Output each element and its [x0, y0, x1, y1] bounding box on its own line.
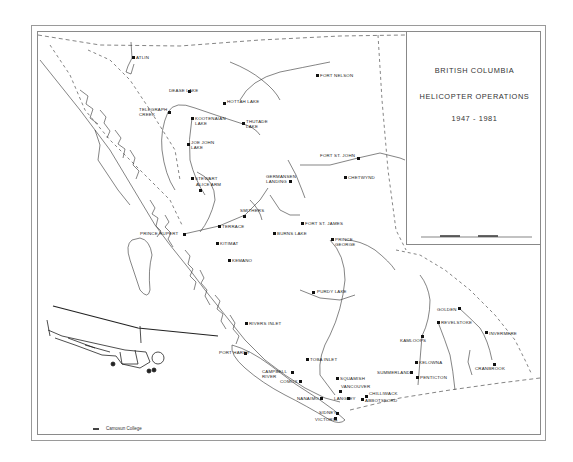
place-marker-icon [361, 398, 364, 401]
helicopter-illustration [47, 306, 218, 373]
place-label: KEMANO [232, 258, 252, 263]
place-marker-icon [320, 397, 323, 400]
place-label: VICTORIA [315, 417, 337, 422]
place-marker-icon [344, 176, 347, 179]
place-label: TELEGRAPH CREEK [139, 107, 173, 117]
place-marker-icon [458, 307, 461, 310]
place-label: HOTTAH LAKE [227, 99, 261, 104]
place-marker-icon [331, 238, 334, 241]
place-label: SQUAMISH [340, 376, 365, 381]
place-marker-icon [336, 377, 339, 380]
place-label: ALICE ARM [196, 182, 230, 187]
place-label: NANAIMO [297, 396, 319, 401]
place-marker-icon [223, 102, 226, 105]
place-label: ABBOTSFORD [365, 398, 397, 403]
place-marker-icon [191, 177, 194, 180]
place-label: FORT NELSON [320, 73, 353, 78]
place-marker-icon [306, 358, 309, 361]
place-marker-icon [357, 157, 360, 160]
place-label: CRANBROOK [475, 366, 505, 371]
place-label: TOBA INLET [310, 357, 337, 362]
credit-text: Camosun College [106, 426, 142, 431]
place-marker-icon [485, 331, 488, 334]
place-label: SIDNEY [319, 410, 337, 415]
place-label: GOLDEN [437, 307, 457, 312]
place-label: PENTICTON [420, 375, 447, 380]
place-label: ATLIN [136, 55, 149, 60]
place-marker-icon [273, 232, 276, 235]
place-marker-icon [415, 361, 418, 364]
place-label: THUTADE LAKE [246, 119, 280, 129]
place-marker-icon [312, 291, 315, 294]
place-label: LANGLEY [334, 396, 356, 401]
place-marker-icon [299, 380, 302, 383]
place-label: TERRACE [222, 224, 244, 229]
place-label: GERMANSEN LANDING [266, 174, 300, 184]
map-title-region: BRITISH COLUMBIA [407, 66, 542, 75]
place-marker-icon [228, 259, 231, 262]
place-label: REVELSTOKE [441, 320, 472, 325]
place-label: VANCOUVER [341, 384, 370, 389]
place-label: KELOWNA [419, 360, 442, 365]
place-marker-icon [183, 233, 186, 236]
place-marker-icon [316, 74, 319, 77]
place-marker-icon [242, 122, 245, 125]
place-marker-icon [216, 242, 219, 245]
place-marker-icon [339, 390, 342, 393]
place-marker-icon [243, 215, 246, 218]
place-label: KOOTENAIAN LAKE [195, 116, 229, 126]
credit-mark [93, 428, 99, 430]
place-label: BURNS LAKE [277, 231, 307, 236]
place-label: INVERMERE [489, 331, 517, 336]
title-box: BRITISH COLUMBIA HELICOPTER OPERATIONS 1… [406, 31, 541, 245]
place-label: DEASE LAKE [169, 88, 203, 93]
place-label: KAMLOOPS [400, 338, 426, 343]
place-marker-icon [437, 321, 440, 324]
place-label: STEWART [195, 176, 218, 181]
map-title-subject: HELICOPTER OPERATIONS [407, 92, 542, 101]
place-marker-icon [132, 56, 135, 59]
place-marker-icon [191, 117, 194, 120]
place-label: RIVERS INLET [249, 321, 281, 326]
place-label: CHILLIWACK [369, 391, 398, 396]
place-marker-icon [416, 376, 419, 379]
place-label: CAMPBELL RIVER [262, 369, 296, 379]
place-label: JOE JOHN LAKE [191, 140, 225, 150]
place-label: PRINCE RUPERT [140, 231, 178, 236]
place-label: PURDY LAKE [317, 289, 347, 294]
place-label: PORT HARDY [219, 350, 250, 355]
place-label: COMOX [280, 379, 298, 384]
place-marker-icon [301, 222, 304, 225]
place-marker-icon [199, 189, 202, 192]
place-label: PRINCE GEORGE [335, 237, 369, 247]
place-label: FORT ST. JOHN [320, 153, 355, 158]
place-label: KITIMAT [220, 241, 238, 246]
map-title-years: 1947 - 1981 [407, 114, 542, 123]
place-label: SMITHERS [240, 208, 264, 213]
place-marker-icon [410, 371, 413, 374]
place-marker-icon [218, 225, 221, 228]
place-marker-icon [245, 322, 248, 325]
place-label: SUMMERLAND [377, 370, 410, 375]
place-label: CHETWYND [348, 175, 375, 180]
place-label: FORT ST. JAMES [305, 221, 343, 226]
place-marker-icon [187, 143, 190, 146]
